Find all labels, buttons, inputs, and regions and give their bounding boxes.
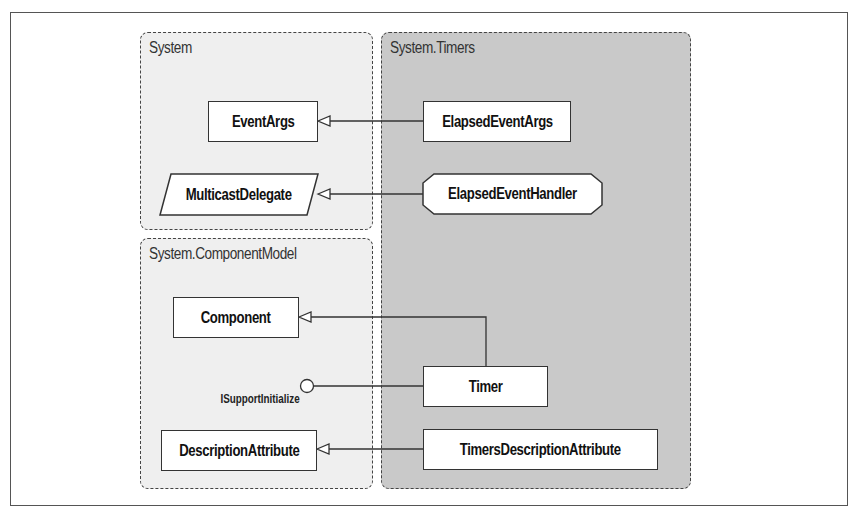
class-label: TimersDescriptionAttribute	[460, 441, 621, 459]
class-label: Component	[201, 309, 271, 327]
package-title-system-timers: System.Timers	[390, 39, 475, 57]
class-label: Timer	[469, 378, 503, 396]
class-descriptionattribute: DescriptionAttribute	[161, 430, 317, 471]
class-label: ElapsedEventHandler	[448, 185, 577, 203]
class-multicastdelegate: MulticastDelegate	[160, 174, 318, 215]
package-title-system: System	[149, 39, 192, 57]
class-component: Component	[173, 297, 299, 338]
class-label: EventArgs	[232, 113, 295, 131]
class-label: DescriptionAttribute	[179, 442, 299, 460]
class-eventargs: EventArgs	[208, 101, 318, 142]
class-timersdescriptionattribute: TimersDescriptionAttribute	[423, 429, 658, 470]
class-label: MulticastDelegate	[186, 186, 292, 204]
class-label: ElapsedEventArgs	[442, 113, 553, 131]
class-timer: Timer	[423, 366, 548, 407]
interface-label-isupportinitialize: ISupportInitialize	[221, 392, 300, 406]
class-elapsedeventargs: ElapsedEventArgs	[423, 101, 571, 142]
class-elapsedeventhandler: ElapsedEventHandler	[423, 174, 602, 214]
package-title-system-componentmodel: System.ComponentModel	[149, 245, 297, 263]
